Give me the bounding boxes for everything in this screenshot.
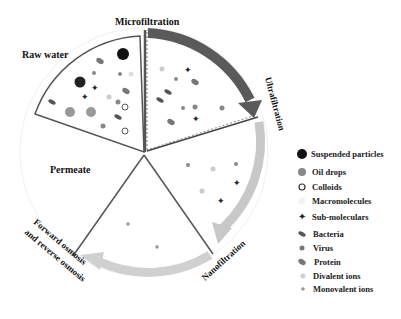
legend-colloids: Colloids <box>312 182 342 192</box>
svg-text:✦: ✦ <box>217 196 225 206</box>
legend-divalent-ions: Divalent ions <box>313 271 361 281</box>
label-raw-water: Raw water <box>22 49 69 60</box>
legend: Suspended particles Oil drops Colloids M… <box>297 149 384 294</box>
ultrafiltration-particles: ✦ ✦ <box>186 162 241 206</box>
svg-text:✦: ✦ <box>233 178 241 188</box>
svg-text:✦: ✦ <box>184 65 192 75</box>
membrane-filtration-diagram: ✦ ✦ ✦ ✦ ✦ ✦ Microfiltration Raw water Pe… <box>0 0 401 319</box>
label-ultrafiltration: Ultrafiltration <box>263 76 287 132</box>
oil-drops-icon <box>298 168 306 176</box>
legend-bacteria: Bacteria <box>313 229 344 239</box>
nanofiltration-particles <box>126 222 159 249</box>
light-flow-arrow-2 <box>100 255 210 272</box>
svg-text:✦: ✦ <box>81 92 89 102</box>
light-flow-arrow-1 <box>223 122 261 228</box>
monovalent-ions-icon <box>301 287 305 291</box>
legend-suspended-particles: Suspended particles <box>311 149 384 159</box>
label-permeate: Permeate <box>50 164 91 175</box>
divalent-ions-icon <box>301 274 306 279</box>
macromolecules-icon <box>299 198 306 205</box>
legend-oil-drops: Oil drops <box>312 167 347 177</box>
legend-sub-moleculars: Sub-moleculars <box>312 212 369 222</box>
suspended-particles-icon <box>297 149 307 159</box>
svg-text:✦: ✦ <box>192 114 200 124</box>
legend-protein: Protein <box>314 257 341 267</box>
label-microfiltration: Microfiltration <box>115 16 180 27</box>
colloids-icon <box>299 184 305 190</box>
legend-macromolecules: Macromolecules <box>312 196 372 206</box>
protein-icon <box>297 258 306 266</box>
legend-monovalent-ions: Monovalent ions <box>313 284 374 294</box>
sub-moleculars-icon: ✦ <box>298 211 306 222</box>
nanofiltration-divider <box>144 155 213 254</box>
bacteria-icon <box>298 230 307 237</box>
legend-virus: Virus <box>313 243 334 253</box>
virus-icon <box>300 246 305 251</box>
svg-text:✦: ✦ <box>91 83 99 93</box>
